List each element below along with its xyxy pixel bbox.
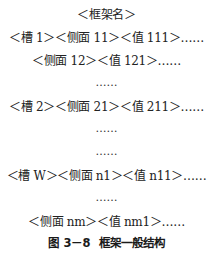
slot-1-line: ＜槽 1＞＜侧面 11＞＜值 111＞……: [0, 31, 213, 45]
ellipsis-line: ……: [0, 191, 213, 205]
figure-number: 图 3－8: [48, 236, 90, 250]
ellipsis-line: ……: [0, 76, 213, 90]
figure-title: 框架一般结构: [99, 236, 165, 250]
facet-nm-line: ＜侧面 nm＞＜值 nm1＞……: [0, 215, 213, 229]
facet-12-line: ＜侧面 12＞＜值 121＞……: [0, 54, 213, 68]
figure-caption: 图 3－8框架一般结构: [0, 236, 213, 250]
ellipsis-line: ……: [0, 122, 213, 136]
slot-w-line: ＜槽 W＞＜侧面 n1＞＜值 n11＞……: [0, 169, 213, 183]
frame-name-line: ＜框架名＞: [0, 8, 213, 22]
ellipsis-line: ……: [0, 145, 213, 159]
slot-2-line: ＜槽 2＞＜侧面 21＞＜值 211＞……: [0, 100, 213, 114]
